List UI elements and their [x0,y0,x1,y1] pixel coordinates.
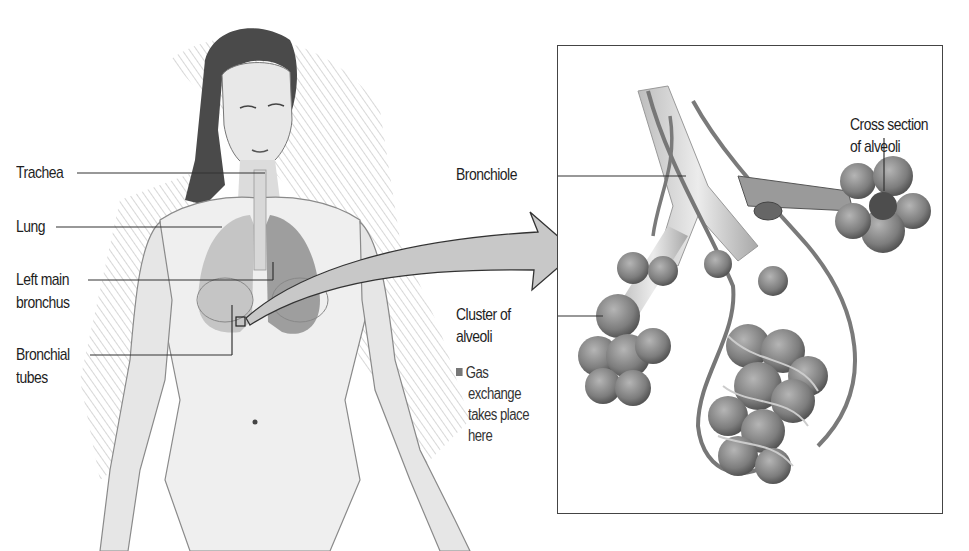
square-bullet-icon [456,368,463,376]
alveoli-with-capillaries [708,324,828,484]
label-bronchial-tubes-1: Bronchial [16,345,70,364]
note-gas-exchange: Gas [456,362,488,383]
label-cross-section-1: Cross section [850,115,928,134]
note-line-4: here [468,425,492,446]
label-lung: Lung [16,217,45,236]
label-bronchial-tubes-2: tubes [16,368,48,387]
label-cluster-of-alveoli-1: Cluster of [456,305,511,324]
label-left-main-bronchus-1: Left main [16,270,69,289]
label-left-main-bronchus-2: bronchus [16,293,69,312]
note-line-2: exchange [468,383,521,404]
trachea [254,170,266,270]
label-cluster-of-alveoli-2: alveoli [456,327,492,346]
note-line-3: takes place [468,404,529,425]
label-bronchiole: Bronchiole [456,165,517,184]
cross-section-alveoli [835,156,931,253]
label-cross-section-2: of alveoli [850,137,900,156]
label-trachea: Trachea [16,163,63,182]
